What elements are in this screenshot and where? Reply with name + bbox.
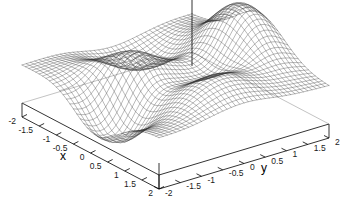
axis-tick-label: -1 [43, 134, 51, 144]
axis-tick-label: -1.5 [18, 125, 33, 135]
axis-tick-label: 2 [335, 137, 340, 147]
surface-plot-figure: -2-1.5-1-0.500.511.52-2-1.5-1-0.500.511.… [0, 0, 347, 207]
axis-tick-label: -2 [165, 188, 173, 198]
axis-tick-label: 0 [250, 162, 255, 172]
axis-tick-label: 0 [80, 152, 85, 162]
axis-tick-label: -0.5 [229, 168, 244, 178]
plot-background [0, 0, 347, 207]
axis-tick-label: -1 [208, 175, 216, 185]
axis-tick-label: -2 [8, 116, 16, 126]
axis-tick-label: 1.5 [124, 179, 136, 189]
axis-tick-label: 0.5 [271, 156, 283, 166]
axis-tick-label: 2 [148, 188, 153, 198]
axis-tick-label: -1.5 [186, 181, 201, 191]
surface-plot-canvas: -2-1.5-1-0.500.511.52-2-1.5-1-0.500.511.… [0, 0, 347, 207]
axis-tick-label: 1 [114, 170, 119, 180]
y-axis-title: y [261, 161, 267, 175]
axis-tick-label: 0.5 [90, 161, 102, 171]
x-axis-title: x [60, 149, 66, 163]
axis-tick-label: 1 [293, 149, 298, 159]
axis-tick-label: 1.5 [314, 143, 326, 153]
